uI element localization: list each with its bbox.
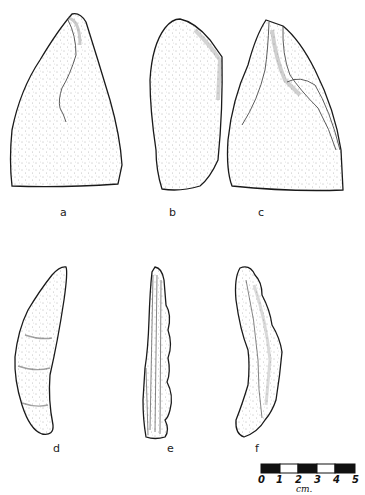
scale-tick-0: 0 [258, 474, 265, 485]
scale-tick-4: 4 [333, 474, 340, 485]
specimen-e-drawing [143, 267, 171, 439]
label-a: a [60, 206, 67, 219]
scale-tick-5: 5 [352, 474, 359, 485]
scale-tick-1: 1 [276, 474, 283, 485]
specimen-a-drawing [11, 14, 123, 187]
label-b: b [169, 206, 176, 219]
specimen-b-drawing [150, 19, 222, 190]
specimen-f-drawing [236, 267, 283, 437]
scale-unit: cm. [296, 484, 312, 494]
scale-tick-3: 3 [314, 474, 321, 485]
label-d: d [53, 442, 60, 455]
illustration-plate [0, 0, 365, 495]
specimen-d-drawing [15, 267, 67, 434]
label-e: e [167, 442, 174, 455]
label-c: c [258, 206, 264, 219]
scale-bar [261, 464, 355, 473]
specimen-c-drawing [228, 20, 344, 191]
label-f: f [255, 442, 259, 455]
